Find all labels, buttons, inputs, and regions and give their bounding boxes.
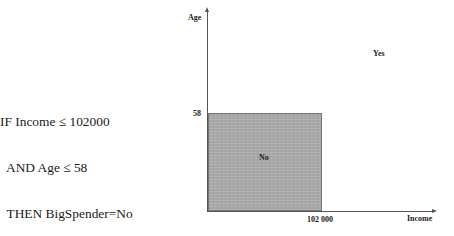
y-tick-58: 58: [193, 109, 201, 118]
y-axis-arrow-icon: [205, 7, 209, 12]
yes-label: Yes: [373, 49, 385, 58]
x-tick-102000: 102 000: [307, 215, 333, 224]
rule-line-if: IF Income ≤ 102000: [0, 114, 156, 129]
rule-line-then: THEN BigSpender=No: [0, 206, 156, 221]
y-axis-label: Age: [188, 13, 201, 22]
x-axis: [207, 211, 434, 212]
rule-line-and: AND Age ≤ 58: [0, 160, 156, 175]
no-region: [208, 113, 322, 211]
y-axis: [207, 10, 208, 212]
x-axis-arrow-icon: [432, 209, 437, 213]
no-label: No: [259, 153, 269, 162]
rule-text: IF Income ≤ 102000 AND Age ≤ 58 THEN Big…: [0, 84, 156, 236]
x-axis-label: Income: [407, 214, 432, 223]
